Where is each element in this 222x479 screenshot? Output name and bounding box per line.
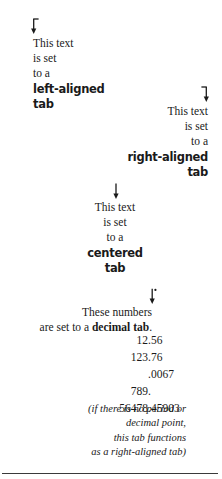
center-tab-label: tab — [55, 261, 175, 276]
decimal-tab-intro-line1: These numbers — [0, 305, 152, 320]
number-row: .0067 — [0, 366, 222, 383]
left-tab-line: to a — [33, 66, 105, 81]
right-aligned-tab-arrow-icon — [195, 86, 209, 103]
number-decimal-part: .56 — [148, 332, 162, 349]
centered-tab-text: This text is set to a centered tab — [55, 200, 175, 276]
number-integer-part: 123 — [131, 349, 148, 366]
number-decimal-part: . — [148, 383, 151, 400]
bottom-rule-divider — [2, 473, 218, 474]
decimal-tab-note: (if there is no period or decimal point,… — [0, 402, 186, 459]
left-tab-line: This text — [33, 36, 105, 51]
number-row: 123 .76 — [0, 349, 222, 366]
right-tab-line: to a — [84, 134, 208, 149]
left-tab-label: left-aligned — [33, 82, 105, 97]
note-line: as a right-aligned tab) — [0, 445, 186, 459]
number-row: 789 . — [0, 383, 222, 400]
center-tab-label: centered — [55, 246, 175, 261]
number-decimal-part: .0067 — [148, 366, 174, 383]
center-tab-line: to a — [55, 230, 175, 245]
number-row: 12 .56 — [0, 332, 222, 349]
right-tab-label: tab — [84, 165, 208, 180]
number-integer-part: 12 — [137, 332, 149, 349]
number-decimal-part: .76 — [148, 349, 162, 366]
left-aligned-tab-arrow-icon — [31, 18, 45, 35]
decimal-tab-intro-text: These numbers are set to a decimal tab. — [0, 305, 152, 335]
left-aligned-tab-text: This text is set to a left-aligned tab — [33, 36, 105, 112]
right-tab-line: This text — [84, 104, 208, 119]
note-line: decimal point, — [0, 416, 186, 430]
number-integer-part: 789 — [131, 383, 148, 400]
left-tab-line: is set — [33, 51, 105, 66]
note-line: this tab functions — [0, 431, 186, 445]
right-aligned-tab-text: This text is set to a right-aligned tab — [84, 104, 208, 180]
tab-alignment-figure: This text is set to a left-aligned tab T… — [0, 0, 222, 479]
right-tab-label: right-aligned — [84, 150, 208, 165]
note-line: (if there is no period or — [0, 402, 186, 416]
center-tab-line: is set — [55, 215, 175, 230]
centered-tab-arrow-icon — [109, 183, 123, 200]
center-tab-line: This text — [55, 200, 175, 215]
decimal-tab-arrow-icon — [148, 288, 162, 305]
right-tab-line: is set — [84, 119, 208, 134]
